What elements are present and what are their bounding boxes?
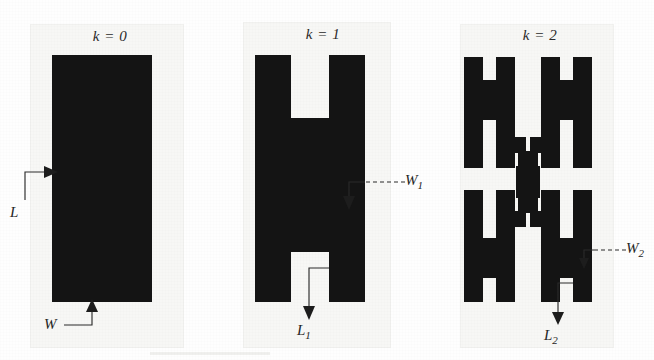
artwork-k0: [0, 0, 220, 360]
leader-line-L2: [558, 283, 573, 312]
leader-line-L1: [309, 268, 329, 306]
trunk-step-br: [530, 211, 552, 227]
figure-panel-k2: k = 2: [426, 0, 654, 360]
patch-rectangle: [52, 55, 152, 302]
dimension-label-L: L: [10, 204, 18, 221]
arrowhead-L1: [303, 306, 315, 320]
artwork-k1: [213, 0, 433, 360]
trunk-step-bl: [504, 211, 526, 227]
subunit-bottom-left: [464, 190, 515, 302]
figure-panel-k0: k = 0 L W: [0, 0, 220, 360]
trunk-step-tr: [530, 137, 552, 153]
dimension-label-W1: W1: [405, 172, 423, 191]
dimension-label-W: W: [44, 316, 57, 333]
leader-line-L: [25, 172, 44, 200]
dimension-label-W2: W2: [626, 240, 644, 259]
dimension-label-L2: L2: [544, 327, 558, 346]
trunk-step-tl: [504, 137, 526, 153]
arrowhead-L2: [552, 312, 564, 325]
artwork-k2: [426, 0, 654, 360]
figure-panel-k1: k = 1 W1 L1: [213, 0, 433, 360]
scan-smudge: [150, 352, 270, 355]
h-tree-order-1: [255, 55, 365, 302]
trunk-step-tl2: [518, 151, 538, 168]
subunit-bottom-right: [541, 190, 592, 302]
trunk-step-bl2: [518, 196, 538, 213]
h-tree-order-2: [464, 57, 592, 302]
figure-canvas: k = 0 L W k = 1: [0, 0, 654, 360]
dimension-label-L1: L1: [297, 322, 311, 341]
leader-line-W: [64, 312, 92, 325]
trunk-centre: [516, 166, 540, 198]
